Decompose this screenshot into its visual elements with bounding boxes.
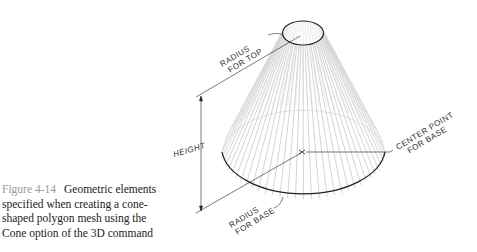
figure-caption: Figure 4-14Geometric elements specified …	[2, 182, 162, 240]
radius-base-leader	[274, 197, 283, 208]
figure-number: Figure 4-14	[2, 183, 56, 195]
top-extension-line	[196, 36, 300, 97]
base-extension-line	[196, 153, 301, 213]
height-dimension	[200, 96, 203, 211]
height-label: HEIGHT	[172, 141, 207, 159]
